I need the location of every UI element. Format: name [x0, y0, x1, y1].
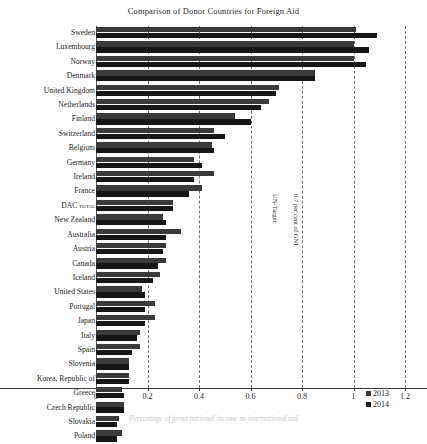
bar-2013 — [96, 243, 166, 248]
x-tick-label: 0.6 — [231, 392, 271, 401]
category-label: Slovenia — [0, 357, 95, 371]
chart-title: Comparison of Donor Countries for Foreig… — [0, 6, 427, 16]
bar-2013 — [96, 157, 194, 162]
bar-2014 — [96, 91, 276, 96]
bar-2014 — [96, 436, 117, 441]
chart-row: Netherlands — [0, 98, 427, 112]
bar-2013 — [96, 315, 155, 320]
bar-2013 — [96, 301, 155, 306]
chart-row: Finland — [0, 112, 427, 126]
bar-rows: SwedenLuxembourgNorwayDenmarkUnited King… — [0, 26, 427, 444]
legend-label: 2013 — [373, 389, 389, 398]
bar-2014 — [96, 220, 166, 225]
category-label: Austria — [0, 242, 95, 256]
bar-2014 — [96, 278, 153, 283]
legend: 20132014 — [366, 388, 389, 410]
chart-row: Spain — [0, 343, 427, 357]
x-tick-label: 1.2 — [385, 392, 425, 401]
bar-2014 — [96, 119, 251, 124]
bar-2014 — [96, 163, 202, 168]
chart-row: DAC total — [0, 199, 427, 213]
x-tick — [354, 388, 355, 391]
category-label: Poland — [0, 429, 95, 443]
category-label: Norway — [0, 55, 95, 69]
category-label: Canada — [0, 257, 95, 271]
chart-row: France — [0, 184, 427, 198]
bar-2014 — [96, 263, 158, 268]
bar-2013 — [96, 430, 122, 435]
bar-2014 — [96, 134, 225, 139]
category-label: Luxembourg — [0, 40, 95, 54]
chart-row: Slovenia — [0, 357, 427, 371]
legend-swatch-icon — [366, 402, 371, 407]
x-axis-label: Percentage of gross national income as i… — [0, 414, 427, 425]
bar-2013 — [96, 171, 214, 176]
bar-2013 — [96, 402, 124, 407]
legend-item-2014[interactable]: 2014 — [366, 399, 389, 410]
bar-2014 — [96, 321, 145, 326]
bar-2014 — [96, 105, 261, 110]
category-label: United Kingdom — [0, 84, 95, 98]
chart-row: Korea, Republic of — [0, 372, 427, 386]
bar-2013 — [96, 70, 315, 75]
bar-2014 — [96, 407, 124, 412]
category-label: Spain — [0, 343, 95, 357]
category-label: Italy — [0, 329, 95, 343]
bar-2014 — [96, 148, 214, 153]
x-tick-label: 0 — [76, 392, 116, 401]
x-tick — [251, 388, 252, 391]
bar-2013 — [96, 229, 181, 234]
chart-row: Portugal — [0, 300, 427, 314]
bar-2013 — [96, 330, 140, 335]
bar-2013 — [96, 214, 163, 219]
bar-2014 — [96, 191, 189, 196]
x-tick — [405, 388, 406, 391]
bar-2013 — [96, 56, 354, 61]
chart-row: Denmark — [0, 69, 427, 83]
annotation-label: 0.7 per cent of GNI — [293, 194, 300, 245]
bar-2014 — [96, 292, 145, 297]
category-label: Finland — [0, 112, 95, 126]
bar-2013 — [96, 185, 202, 190]
bar-2013 — [96, 200, 173, 205]
x-tick — [96, 388, 97, 391]
bar-2014 — [96, 249, 163, 254]
x-tick — [302, 388, 303, 391]
chart-row: Japan — [0, 314, 427, 328]
chart-row: Norway — [0, 55, 427, 69]
bar-2014 — [96, 350, 132, 355]
category-label: United States — [0, 285, 95, 299]
bar-2014 — [96, 379, 129, 384]
legend-label: 2014 — [373, 400, 389, 409]
category-label: Japan — [0, 314, 95, 328]
annotation-label: UN-Target: — [272, 194, 279, 224]
category-label: New Zealand — [0, 213, 95, 227]
legend-item-2013[interactable]: 2013 — [366, 388, 389, 399]
category-label: Belgium — [0, 141, 95, 155]
chart-row: United Kingdom — [0, 84, 427, 98]
chart-row: Austria — [0, 242, 427, 256]
bar-2013 — [96, 128, 214, 133]
bar-2013 — [96, 41, 354, 46]
category-label: France — [0, 184, 95, 198]
chart-row: New Zealand — [0, 213, 427, 227]
x-tick-label: 0.8 — [282, 392, 322, 401]
chart-row: Germany — [0, 156, 427, 170]
chart-row: Sweden — [0, 26, 427, 40]
chart-row: Poland — [0, 429, 427, 443]
category-label: DAC total — [0, 199, 95, 213]
bar-2013 — [96, 258, 166, 263]
x-tick — [148, 388, 149, 391]
chart-row: Switzerland — [0, 127, 427, 141]
category-label: Czech Republic — [0, 401, 95, 415]
bar-2014 — [96, 177, 194, 182]
category-label: Denmark — [0, 69, 95, 83]
chart-row: United States — [0, 285, 427, 299]
category-label: Portugal — [0, 300, 95, 314]
bar-2013 — [96, 27, 356, 32]
bar-2013 — [96, 344, 140, 349]
category-label: Germany — [0, 156, 95, 170]
chart-row: Belgium — [0, 141, 427, 155]
category-label: Sweden — [0, 26, 95, 40]
